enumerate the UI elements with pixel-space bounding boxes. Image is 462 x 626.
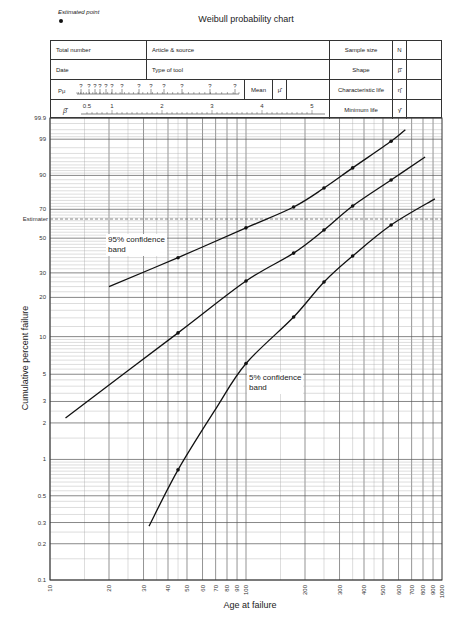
- x-tick-label: 500: [380, 584, 386, 595]
- data-point: [176, 256, 180, 260]
- data-point: [176, 468, 180, 472]
- plot-curves: [66, 130, 435, 526]
- y-tick-label: 70: [39, 206, 46, 212]
- data-point: [351, 254, 355, 258]
- x-tick-label: 10: [47, 584, 53, 591]
- y-tick-label: 99: [39, 136, 46, 142]
- data-point: [244, 362, 248, 366]
- y-tick-label: 90: [39, 172, 46, 178]
- x-axis-label: Age at failure: [0, 600, 462, 610]
- x-tick-label: 700: [409, 584, 415, 595]
- band-95-label-line2: band: [108, 245, 126, 254]
- x-tick-label: 600: [396, 584, 402, 595]
- data-point: [292, 251, 296, 255]
- x-tick-label: 900: [430, 584, 436, 595]
- data-point: [244, 226, 248, 230]
- x-tick-label: 40: [165, 584, 171, 591]
- data-point: [389, 178, 393, 182]
- y-tick-label: 0.1: [38, 577, 47, 583]
- x-tick-label: 50: [184, 584, 190, 591]
- data-point: [389, 140, 393, 144]
- x-tick-label: 80: [224, 584, 230, 591]
- x-tick-label: 60: [200, 584, 206, 591]
- x-tick-label: 800: [420, 584, 426, 595]
- y-tick-label: 1: [43, 456, 47, 462]
- x-tick-label: 20: [106, 584, 112, 591]
- band-95-label-line1: 95% confidence: [108, 235, 165, 244]
- y-tick-label: 0.5: [38, 493, 47, 499]
- band-5-label-line2: band: [249, 383, 267, 392]
- data-point: [351, 204, 355, 208]
- x-tick-label: 100: [243, 584, 249, 595]
- y-tick-label: 5: [43, 371, 47, 377]
- weibull-chart-page: Estimated point Weibull probability char…: [0, 0, 462, 626]
- series-curve-2: [149, 199, 435, 526]
- x-tick-label: 70: [213, 584, 219, 591]
- x-tick-label: 1000: [439, 584, 445, 598]
- x-tick-label: 300: [337, 584, 343, 595]
- band-5-label: 5% confidence band: [247, 372, 303, 394]
- x-tick-label: 90: [234, 584, 240, 591]
- data-point: [322, 228, 326, 232]
- series-curve-1: [66, 157, 426, 418]
- data-point: [322, 280, 326, 284]
- weibull-plot-area: 0.10.20.30.512351020305070909999.9102030…: [0, 0, 462, 626]
- estimater-label: Estimater: [23, 216, 48, 222]
- y-tick-label: 99.9: [34, 115, 46, 121]
- data-point: [322, 186, 326, 190]
- y-tick-label: 2: [43, 420, 47, 426]
- y-tick-label: 3: [43, 398, 47, 404]
- data-point: [176, 331, 180, 335]
- data-point: [292, 205, 296, 209]
- y-axis-label: Cumulative percent failure: [20, 288, 30, 428]
- y-tick-label: 0.3: [38, 520, 47, 526]
- band-95-label: 95% confidence band: [106, 234, 167, 256]
- y-tick-label: 30: [39, 270, 46, 276]
- y-tick-label: 50: [39, 235, 46, 241]
- data-point: [351, 166, 355, 170]
- y-tick-label: 0.2: [38, 541, 47, 547]
- data-point: [292, 315, 296, 319]
- band-5-label-line1: 5% confidence: [249, 373, 301, 382]
- x-tick-label: 200: [302, 584, 308, 595]
- data-point: [244, 279, 248, 283]
- x-tick-label: 30: [141, 584, 147, 591]
- data-point: [389, 223, 393, 227]
- y-tick-label: 20: [39, 294, 46, 300]
- x-tick-label: 400: [361, 584, 367, 595]
- plot-grid: [50, 118, 442, 580]
- y-tick-label: 10: [39, 334, 46, 340]
